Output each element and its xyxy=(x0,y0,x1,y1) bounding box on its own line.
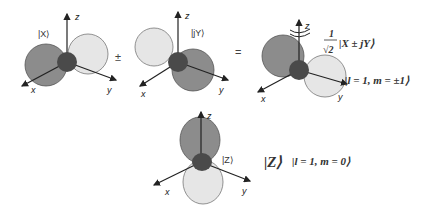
z-label: z xyxy=(304,21,310,31)
orbital-jy-label: |jY⟩ xyxy=(191,28,205,38)
plus-minus-operator: ± xyxy=(115,51,121,63)
z-label: z xyxy=(206,111,212,121)
y-label: y xyxy=(337,92,343,102)
z-equation: |Z⟩ |l = 1, m = 0⟩ xyxy=(264,154,351,170)
z-label: z xyxy=(74,12,80,22)
z-state: |l = 1, m = 0⟩ xyxy=(292,155,351,167)
orbital-z: z x y |Z⟩ xyxy=(154,111,250,204)
y-label: y xyxy=(106,85,112,95)
orbital-jy: z x y |jY⟩ xyxy=(135,11,228,99)
x-label: x xyxy=(30,85,36,95)
y-label: y xyxy=(241,186,247,196)
z-label: z xyxy=(184,11,190,21)
x-label: x xyxy=(140,89,146,99)
y-label: y xyxy=(218,85,224,95)
nucleus xyxy=(168,52,188,72)
orbital-x-label: |X⟩ xyxy=(38,29,50,39)
nucleus xyxy=(57,52,77,72)
combined-lobe-light xyxy=(304,55,346,97)
coefficient-numerator: 1 xyxy=(329,28,334,39)
jy-lobe-light xyxy=(135,28,173,66)
x-label: x xyxy=(164,187,170,197)
x-label: x xyxy=(260,94,266,104)
orbital-z-label: |Z⟩ xyxy=(222,155,234,165)
coefficient-denominator: √2 xyxy=(323,44,334,55)
combined-state: |l = 1, m = ±1⟩ xyxy=(345,74,410,86)
equals-operator: = xyxy=(235,46,241,58)
nucleus xyxy=(192,153,212,171)
rotation-arrow-icon xyxy=(290,33,310,37)
orbital-diagram: z x y |X⟩ ± z x y |jY⟩ = z x y 1 √2 | xyxy=(0,0,439,214)
z-ket: |Z⟩ xyxy=(264,154,282,170)
combined-ket: |X ± jY⟩ xyxy=(339,37,375,49)
orbital-x: z x y |X⟩ xyxy=(22,12,116,95)
nucleus xyxy=(289,60,309,80)
